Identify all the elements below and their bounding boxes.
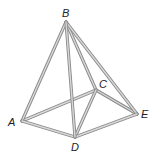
label-B: B xyxy=(62,7,69,19)
label-E: E xyxy=(141,108,149,120)
edge-A-D xyxy=(22,121,75,137)
edges xyxy=(22,22,137,137)
edge-B-E xyxy=(66,22,137,114)
label-A: A xyxy=(7,116,15,128)
label-D: D xyxy=(71,141,79,153)
label-C: C xyxy=(99,78,107,90)
edge-C-E xyxy=(96,90,137,114)
pyramid-diagram: B A C D E xyxy=(0,0,160,163)
